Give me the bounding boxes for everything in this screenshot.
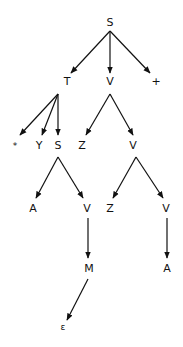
tree-node-label: + xyxy=(151,76,160,87)
tree-node-label: A xyxy=(163,263,171,274)
tree-edge-arrow xyxy=(136,157,163,198)
tree-edge-arrow xyxy=(20,94,58,135)
tree-node-label: V xyxy=(106,76,114,87)
tree-edge-arrow xyxy=(113,157,136,198)
tree-node-label: Z xyxy=(78,140,86,151)
tree-node-label: * xyxy=(13,142,18,151)
tree-edge-arrow xyxy=(110,94,133,135)
tree-node-label: Z xyxy=(106,203,114,214)
tree-edge-arrow xyxy=(58,157,83,198)
tree-node-label: V xyxy=(162,203,170,214)
tree-node-label: V xyxy=(129,140,137,151)
tree-node-label: V xyxy=(83,203,91,214)
tree-node-label: S xyxy=(107,17,114,28)
tree-edge-arrow xyxy=(36,157,58,198)
tree-node-label: ε xyxy=(61,323,66,332)
tree-node-label: T xyxy=(64,76,71,87)
tree-node-label: M xyxy=(84,263,94,274)
tree-edges xyxy=(0,0,183,347)
tree-node-label: A xyxy=(29,203,37,214)
tree-edge-arrow xyxy=(110,31,150,73)
tree-edge-arrow xyxy=(42,94,58,135)
tree-node-label: S xyxy=(55,140,62,151)
tree-node-label: Y xyxy=(36,140,43,151)
tree-edge-arrow xyxy=(67,279,88,320)
tree-edge-arrow xyxy=(86,94,110,135)
tree-edge-arrow xyxy=(71,31,110,73)
